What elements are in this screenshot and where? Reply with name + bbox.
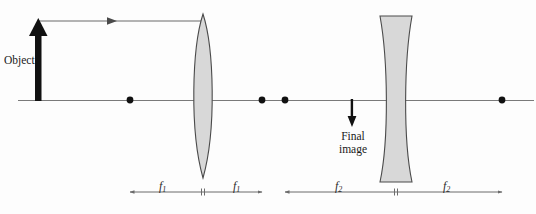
f1-left-subscript: 1 bbox=[162, 185, 166, 194]
f2-measure-bar bbox=[285, 189, 502, 196]
focal-dot bbox=[127, 97, 134, 104]
final-image-label-line1: Final bbox=[341, 130, 365, 142]
final-image-label-line2: image bbox=[339, 143, 367, 155]
diverging-lens bbox=[380, 16, 412, 182]
object-label: Object bbox=[4, 55, 35, 67]
focal-dot bbox=[282, 97, 289, 104]
converging-lens bbox=[194, 14, 212, 178]
focal-length-label-f2-right: f2 bbox=[443, 180, 450, 194]
focal-length-label-f1-right: f1 bbox=[233, 180, 240, 194]
f1-measure-bar bbox=[130, 189, 262, 196]
f2-left-subscript: 2 bbox=[338, 185, 342, 194]
focal-length-label-f1-left: f1 bbox=[159, 180, 166, 194]
incident-ray bbox=[38, 17, 204, 25]
final-image-arrow bbox=[348, 99, 357, 127]
incident-ray-arrowhead bbox=[107, 17, 117, 25]
focal-dot bbox=[499, 97, 506, 104]
focal-length-label-f2-left: f2 bbox=[335, 180, 342, 194]
final-image-label: Final image bbox=[330, 130, 376, 155]
optics-ray-diagram: Object Final image f1 f1 f2 f2 bbox=[0, 0, 536, 214]
f2-right-subscript: 2 bbox=[446, 185, 450, 194]
focal-dot bbox=[259, 97, 266, 104]
diagram-canvas bbox=[0, 0, 536, 214]
f1-right-subscript: 1 bbox=[236, 185, 240, 194]
